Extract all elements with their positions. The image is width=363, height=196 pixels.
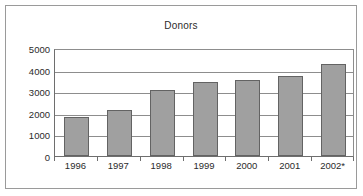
bar[interactable] (150, 90, 175, 156)
bar[interactable] (193, 82, 218, 156)
bar-slot (107, 50, 132, 156)
y-axis-tick-label: 0 (6, 152, 50, 163)
y-axis-tick-label: 3000 (6, 87, 50, 98)
bar[interactable] (321, 64, 346, 156)
chart-frame: Donors 500040003000200010000 19961997199… (5, 5, 357, 189)
bar[interactable] (64, 117, 89, 156)
x-axis-tick-label: 2000 (236, 160, 257, 171)
plot-area (54, 49, 354, 157)
bar[interactable] (107, 110, 132, 156)
bar-slot (64, 50, 89, 156)
bar[interactable] (235, 80, 260, 156)
x-axis-tick-label: 2002* (320, 160, 345, 171)
y-axis-tick-labels: 500040003000200010000 (6, 49, 50, 157)
bar-slot (150, 50, 175, 156)
x-axis-tick-label: 2001 (279, 160, 300, 171)
bar-slot (193, 50, 218, 156)
y-axis-tick-label: 1000 (6, 130, 50, 141)
y-axis-tick-label: 4000 (6, 65, 50, 76)
bar-slot (321, 50, 346, 156)
y-axis-tick-label: 2000 (6, 108, 50, 119)
x-axis-tick-labels: 1996199719981999200020012002* (54, 160, 354, 176)
chart-title: Donors (6, 20, 356, 31)
bar-slot (278, 50, 303, 156)
x-axis-tick-label: 1998 (151, 160, 172, 171)
bar[interactable] (278, 76, 303, 156)
x-axis-tick-label: 1996 (65, 160, 86, 171)
x-axis-tick-label: 1997 (108, 160, 129, 171)
x-axis-tick-label: 1999 (193, 160, 214, 171)
bar-slot (235, 50, 260, 156)
y-axis-tick-label: 5000 (6, 44, 50, 55)
